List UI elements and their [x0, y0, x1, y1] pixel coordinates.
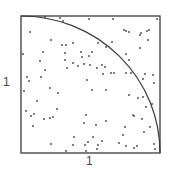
- data-point: [65, 44, 67, 46]
- data-point: [50, 143, 52, 145]
- data-point: [143, 131, 145, 133]
- data-point: [128, 31, 130, 33]
- data-point: [125, 72, 127, 74]
- data-point: [62, 20, 64, 22]
- data-point: [40, 76, 42, 78]
- data-point: [153, 82, 155, 84]
- data-point: [49, 87, 51, 89]
- data-point: [142, 96, 144, 98]
- data-point: [96, 148, 98, 150]
- data-point: [28, 80, 30, 82]
- x-axis-label: 1: [86, 155, 93, 167]
- data-point: [113, 72, 115, 74]
- data-point: [101, 64, 103, 66]
- data-point: [23, 90, 25, 92]
- data-point: [91, 51, 93, 53]
- data-point: [72, 42, 74, 44]
- data-point: [92, 136, 94, 138]
- data-point: [33, 113, 35, 115]
- random-points: [22, 16, 158, 152]
- data-point: [105, 89, 107, 91]
- data-point: [130, 72, 132, 74]
- data-point: [141, 118, 143, 120]
- data-point: [57, 92, 59, 94]
- data-point: [139, 34, 141, 36]
- data-point: [59, 17, 61, 19]
- data-point: [88, 18, 90, 20]
- data-point: [91, 89, 93, 91]
- data-point: [56, 108, 58, 110]
- data-point: [139, 47, 141, 49]
- data-point: [86, 79, 88, 81]
- quarter-circle-arc: [21, 16, 160, 153]
- data-point: [84, 144, 86, 146]
- data-point: [29, 31, 31, 33]
- data-point: [133, 147, 135, 149]
- data-point: [32, 125, 34, 127]
- unit-square-frame: [21, 16, 160, 153]
- data-point: [26, 76, 28, 78]
- data-point: [105, 46, 107, 48]
- data-point: [111, 41, 113, 43]
- data-point: [118, 142, 120, 144]
- data-point: [72, 62, 74, 64]
- data-point: [148, 29, 150, 31]
- data-point: [128, 94, 130, 96]
- data-point: [156, 18, 158, 20]
- data-point: [50, 39, 52, 41]
- data-point: [102, 73, 104, 75]
- data-point: [149, 126, 151, 128]
- data-point: [97, 144, 99, 146]
- data-point: [77, 65, 79, 67]
- y-axis-label: 1: [3, 76, 10, 88]
- data-point: [140, 32, 142, 34]
- data-point: [80, 51, 82, 53]
- data-point: [97, 42, 99, 44]
- data-point: [30, 115, 32, 117]
- data-point: [104, 66, 106, 68]
- data-point: [64, 59, 66, 61]
- data-point: [22, 53, 24, 55]
- data-point: [125, 145, 127, 147]
- data-point: [146, 30, 148, 32]
- data-point: [85, 114, 87, 116]
- data-point: [137, 97, 139, 99]
- data-point: [112, 18, 114, 20]
- data-point: [101, 140, 103, 142]
- data-point: [152, 74, 154, 76]
- data-point: [25, 110, 27, 112]
- data-point: [128, 59, 130, 61]
- data-point: [110, 72, 112, 74]
- data-point: [142, 78, 144, 80]
- data-point: [83, 122, 85, 124]
- data-point: [36, 100, 38, 102]
- data-point: [83, 63, 85, 65]
- data-point: [105, 120, 107, 122]
- data-point: [123, 29, 125, 31]
- monte-carlo-diagram: [0, 0, 172, 173]
- data-point: [153, 143, 155, 145]
- data-point: [87, 141, 89, 143]
- data-point: [124, 126, 126, 128]
- data-point: [52, 116, 54, 118]
- data-point: [44, 69, 46, 71]
- data-point: [49, 117, 51, 119]
- data-point: [151, 103, 153, 105]
- data-point: [96, 67, 98, 69]
- data-point: [144, 73, 146, 75]
- data-point: [73, 136, 75, 138]
- data-point: [88, 55, 90, 57]
- data-point: [154, 148, 156, 150]
- data-point: [66, 67, 68, 69]
- data-point: [125, 30, 127, 32]
- data-point: [42, 51, 44, 53]
- data-point: [125, 53, 127, 55]
- data-point: [133, 115, 135, 117]
- data-point: [95, 124, 97, 126]
- data-point: [122, 134, 124, 136]
- data-point: [81, 56, 83, 58]
- data-point: [43, 118, 45, 120]
- data-point: [72, 144, 74, 146]
- data-point: [44, 16, 46, 18]
- data-point: [61, 44, 63, 46]
